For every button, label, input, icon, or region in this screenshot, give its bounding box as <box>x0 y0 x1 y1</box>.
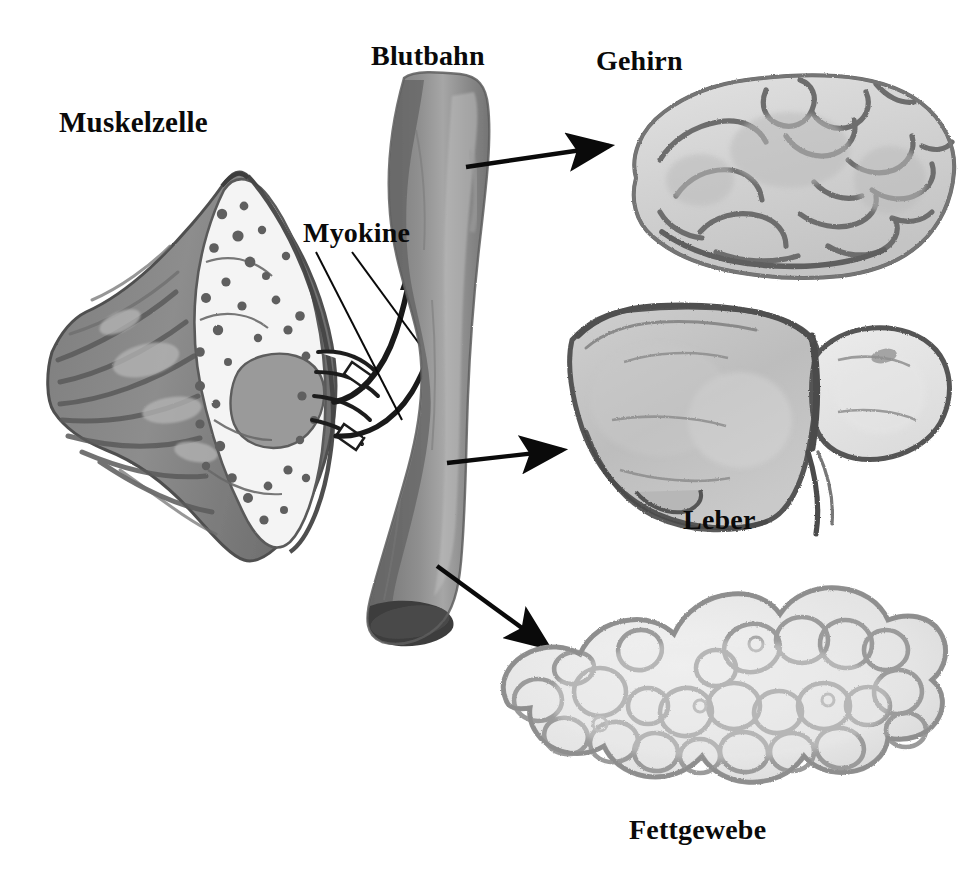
label-blutbahn: Blutbahn <box>371 42 485 70</box>
arrow-to-adipose <box>437 566 548 647</box>
label-leber: Leber <box>683 506 756 534</box>
liver-icon <box>570 305 950 534</box>
label-gehirn: Gehirn <box>596 47 683 75</box>
figure-canvas: Muskelzelle Blutbahn Myokine Gehirn Lebe… <box>0 0 978 869</box>
label-fettgewebe: Fettgewebe <box>629 816 766 844</box>
brain-icon <box>634 75 954 278</box>
label-myokine: Myokine <box>303 219 410 247</box>
label-muskelzelle: Muskelzelle <box>59 108 208 137</box>
muscle-cell-icon <box>48 172 336 561</box>
adipose-tissue-icon <box>503 588 945 783</box>
